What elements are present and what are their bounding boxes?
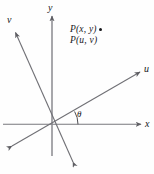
point-marker-dot [99,28,102,31]
v-axis-label: v [7,15,11,25]
u-axis-line [12,72,140,146]
point-label-xy: P(x, y) [70,24,97,34]
point-label-uv-row: P(u, v) [70,35,102,46]
v-axis-line [16,33,74,163]
x-axis-label: x [145,119,149,129]
coordinate-axes-diagram: y v u x θ P(x, y) P(u, v) [0,0,154,174]
point-label-xy-row: P(x, y) [70,24,102,35]
point-label-group: P(x, y) P(u, v) [70,24,102,46]
point-label-uv: P(u, v) [70,35,97,45]
u-axis-label: u [144,64,149,74]
theta-angle-label: θ [77,110,81,119]
y-axis-label: y [48,3,52,13]
